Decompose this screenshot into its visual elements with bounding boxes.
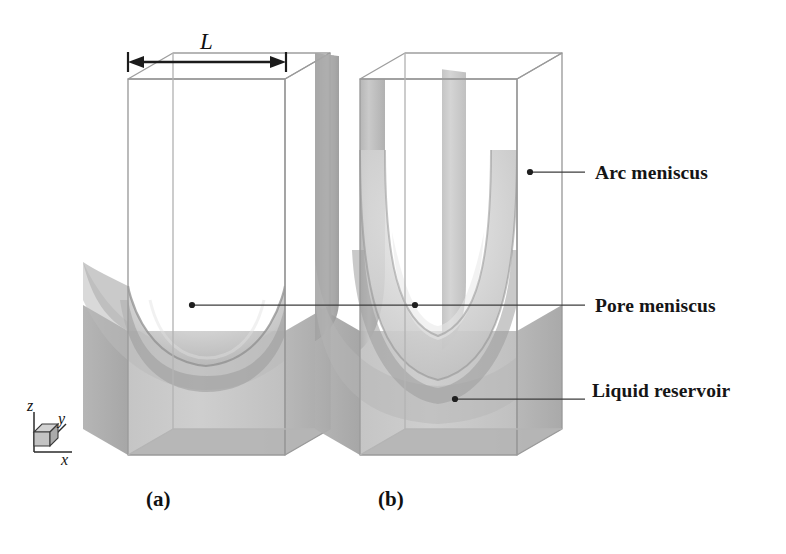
leader-dot-pore-meniscus-a — [189, 302, 195, 308]
axis-label-x: x — [61, 452, 68, 468]
axis-label-z: z — [27, 398, 33, 414]
leader-dot-pore-meniscus-b — [412, 302, 418, 308]
subfigure-caption-a: (a) — [146, 489, 171, 510]
subfigure-caption-b: (b) — [378, 489, 404, 510]
cube-front-face — [34, 432, 50, 446]
pore-meniscus-diagram — [0, 0, 786, 554]
axis-label-y: y — [58, 411, 65, 427]
leader-dot-liquid-reservoir — [452, 396, 458, 402]
dimension-label-L: L — [200, 30, 213, 53]
leader-dot-arc-meniscus — [527, 169, 533, 175]
figure-root: L Arc meniscus Pore meniscus Liquid rese… — [0, 0, 786, 554]
callout-label-pore-meniscus: Pore meniscus — [595, 296, 716, 316]
callout-label-liquid-reservoir: Liquid reservoir — [592, 381, 730, 401]
callout-label-arc-meniscus: Arc meniscus — [595, 163, 708, 183]
